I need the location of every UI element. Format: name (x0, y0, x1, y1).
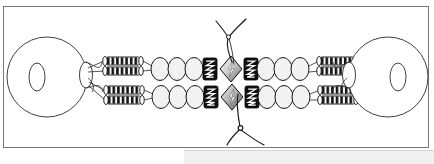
dark-block-lower-right (245, 86, 259, 108)
coil-segment (107, 96, 141, 104)
bead (185, 58, 203, 81)
bead (291, 58, 309, 81)
page-bottom-left (0, 150, 184, 164)
bead (168, 58, 186, 81)
right-sphere-pore (390, 63, 406, 91)
bead (292, 86, 310, 109)
coil-segment (107, 86, 141, 94)
bead (186, 86, 204, 109)
coil-segment (106, 57, 140, 65)
bead (152, 86, 170, 109)
thread-node-bottom (238, 126, 243, 131)
left-sphere-body (7, 37, 87, 117)
bead (275, 86, 293, 109)
bead (169, 86, 187, 109)
dark-block-upper-right (244, 58, 258, 80)
right-sphere-neck (343, 62, 356, 88)
page-bottom-strip (184, 150, 434, 164)
dark-block-lower-left (204, 86, 218, 108)
bead-chain-upper-left (151, 58, 203, 81)
figure-stage (0, 0, 434, 164)
bead-chain-lower-left (152, 86, 204, 109)
coil-segment (106, 67, 140, 75)
bead (274, 58, 292, 81)
bead (257, 58, 275, 81)
bead-chain-lower-right (258, 86, 310, 109)
coil-segment (321, 96, 355, 104)
left-sphere-neck (80, 62, 93, 88)
bead (258, 86, 276, 109)
dark-block-upper-left (203, 58, 217, 80)
schematic-diagram (0, 0, 434, 164)
right-sphere-body (348, 37, 428, 117)
bead-chain-upper-right (257, 58, 309, 81)
thread-node-top (227, 35, 231, 39)
left-sphere-pore (29, 63, 45, 91)
bead (151, 58, 169, 81)
